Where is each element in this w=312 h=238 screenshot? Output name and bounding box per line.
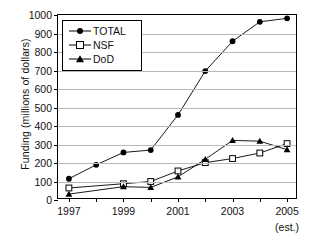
y-axis-tick (54, 163, 58, 164)
gridline (58, 108, 296, 109)
x-axis-tick (178, 198, 179, 202)
x-axis-sublabel: (est.) (275, 221, 299, 233)
x-axis-tick (69, 198, 70, 202)
x-axis-tick (287, 198, 288, 202)
x-axis-tick-label: 2005 (275, 205, 298, 217)
y-axis-tick-label: 300 (34, 139, 52, 151)
y-axis-tick (54, 89, 58, 90)
y-axis-tick (54, 52, 58, 53)
data-point-total (121, 150, 127, 156)
data-point-total (257, 19, 263, 25)
y-axis-tick-label: 900 (34, 28, 52, 40)
legend-label-total: TOTAL (93, 25, 126, 37)
legend-label-nsf: NSF (93, 39, 114, 51)
chart-legend: TOTAL NSF DoD (62, 20, 142, 71)
y-axis-tick (54, 126, 58, 127)
y-axis-tick-label: 400 (34, 120, 52, 132)
x-axis-tick (233, 198, 234, 202)
gridline (58, 89, 296, 90)
y-axis-tick-label: 200 (34, 157, 52, 169)
legend-label-dod: DoD (93, 53, 114, 65)
y-axis-tick (54, 200, 58, 201)
funding-line-chart: Funding (millions of dollars) 0100200300… (0, 0, 312, 238)
legend-item-dod: DoD (67, 52, 137, 66)
x-axis-tick-label: 1999 (112, 205, 135, 217)
y-axis-tick (54, 34, 58, 35)
y-axis-tick-label: 600 (34, 83, 52, 95)
x-axis-minor-tick (151, 198, 152, 202)
data-point-nsf (230, 156, 236, 162)
data-point-dod (229, 137, 236, 143)
x-axis-tick-label: 2003 (221, 205, 244, 217)
y-axis-tick (54, 182, 58, 183)
gridline (58, 182, 296, 183)
series-line-dod (69, 140, 287, 194)
x-axis-minor-tick (96, 198, 97, 202)
data-point-nsf (175, 168, 181, 174)
data-point-dod (175, 173, 182, 179)
y-axis-tick-label: 500 (34, 102, 52, 114)
x-axis-tick-label: 2001 (166, 205, 189, 217)
y-axis-tick-label: 100 (34, 176, 52, 188)
filled-triangle-icon (67, 53, 93, 65)
data-point-total (148, 147, 154, 153)
y-axis-tick (54, 15, 58, 16)
y-axis-tick (54, 108, 58, 109)
data-point-nsf (257, 150, 263, 156)
open-square-icon (67, 39, 93, 51)
data-point-total (284, 15, 290, 21)
gridline (58, 163, 296, 164)
gridline (58, 145, 296, 146)
data-point-total (175, 112, 181, 118)
y-axis-tick-label: 1000 (29, 9, 52, 21)
y-axis-title: Funding (millions of dollars) (19, 9, 31, 199)
gridline (58, 126, 296, 127)
x-axis-minor-tick (205, 198, 206, 202)
y-axis-tick-label: 800 (34, 46, 52, 58)
y-axis-tick (54, 145, 58, 146)
legend-item-nsf: NSF (67, 38, 137, 52)
data-point-dod (202, 156, 209, 162)
y-axis-tick (54, 71, 58, 72)
y-axis-tick-label: 700 (34, 65, 52, 77)
x-axis-minor-tick (260, 198, 261, 202)
data-point-total (230, 38, 236, 44)
x-axis-tick (123, 198, 124, 202)
filled-circle-icon (67, 25, 93, 37)
data-point-nsf (66, 185, 72, 191)
y-axis-tick-label: 0 (46, 194, 52, 206)
legend-item-total: TOTAL (67, 24, 137, 38)
x-axis-tick-label: 1997 (57, 205, 80, 217)
